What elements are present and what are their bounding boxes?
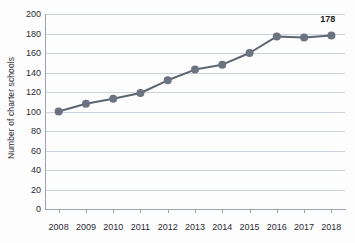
data-point-marker	[164, 76, 172, 84]
data-point-marker	[327, 31, 335, 39]
data-point-marker	[136, 89, 144, 97]
data-point-marker	[109, 95, 117, 103]
data-point-marker	[300, 33, 308, 41]
data-point-marker	[82, 100, 90, 108]
data-point-value-label: 178	[320, 14, 335, 24]
data-series-line	[0, 0, 355, 243]
data-point-marker	[191, 66, 199, 74]
data-point-marker	[273, 32, 281, 40]
data-point-marker	[218, 61, 226, 69]
data-point-marker	[246, 49, 254, 57]
data-point-marker	[55, 108, 63, 116]
line-chart: Number of charter schools 02040608010012…	[0, 0, 355, 243]
